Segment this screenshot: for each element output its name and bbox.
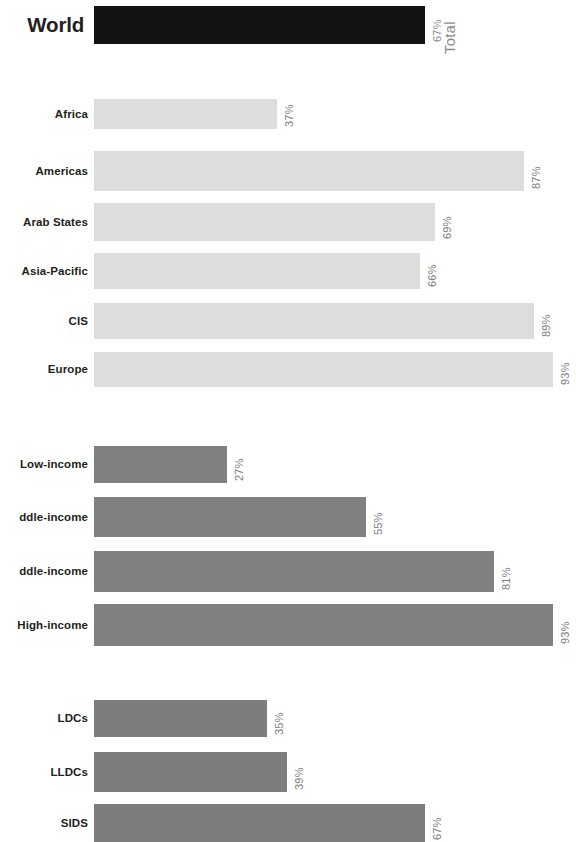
bar-row: LDCs35% [0,700,576,737]
bar-row: High-income93% [0,604,576,646]
bar [94,604,553,646]
bar-category-label: Low-income [0,446,88,483]
bar-row: Americas87% [0,151,576,191]
bar-track [94,6,425,44]
bar-row: ddle-income81% [0,551,576,592]
bar [94,446,227,483]
bar-value-label: 81% [500,567,512,590]
bar [94,497,366,537]
bar-value-label: 55% [372,512,384,535]
bar-category-label: Arab States [0,203,88,241]
bar [94,804,425,842]
axis-title: Total [441,21,458,54]
bar-track [94,446,227,483]
bar-category-label: Americas [0,151,88,191]
bar-category-label: LDCs [0,700,88,737]
bar-value-label: 39% [293,767,305,790]
bar-row: World67% [0,6,576,44]
bar [94,752,287,792]
bar-value-label: 93% [559,362,571,385]
bar-row: Arab States69% [0,203,576,241]
bar-category-label: Asia-Pacific [0,253,88,289]
bar-row: Low-income27% [0,446,576,483]
bar-value-label: 89% [540,314,552,337]
bar-row: Europe93% [0,352,576,387]
bar [94,253,420,289]
bar-value-label: 37% [283,104,295,127]
bar-track [94,497,366,537]
bar [94,99,277,129]
bar-row: SIDS67% [0,804,576,842]
bar-value-label: 27% [233,458,245,481]
bar-row: Africa37% [0,99,576,129]
bar-track [94,99,277,129]
bar-track [94,352,553,387]
bar-category-label: ddle-income [0,551,88,592]
bar-value-label: 93% [559,621,571,644]
bar-track [94,604,553,646]
bar [94,151,524,191]
bar-track [94,203,435,241]
bar-track [94,303,534,339]
bar-category-label: Europe [0,352,88,387]
bar [94,700,267,737]
bar-row: LLDCs39% [0,752,576,792]
bar-value-label: 67% [431,817,443,840]
bar-value-label: 87% [530,166,542,189]
bar-value-label: 66% [426,264,438,287]
bar-track [94,551,494,592]
bar-category-label: ddle-income [0,497,88,537]
bar-row: Asia-Pacific66% [0,253,576,289]
bar [94,303,534,339]
bar-track [94,700,267,737]
bar-category-label: High-income [0,604,88,646]
bar-track [94,804,425,842]
bar-value-label: 35% [273,712,285,735]
bar [94,352,553,387]
bar-track [94,752,287,792]
bar-value-label: 69% [441,216,453,239]
bar [94,6,425,44]
bar-track [94,253,420,289]
bar-category-label: LLDCs [0,752,88,792]
bar-row: CIS89% [0,303,576,339]
bar [94,203,435,241]
bar-track [94,151,524,191]
bar-category-label: CIS [0,303,88,339]
bar [94,551,494,592]
bar-category-label: SIDS [0,804,88,842]
bar-category-label: Africa [0,99,88,129]
bar-row: ddle-income55% [0,497,576,537]
bar-category-label: World [0,6,84,44]
